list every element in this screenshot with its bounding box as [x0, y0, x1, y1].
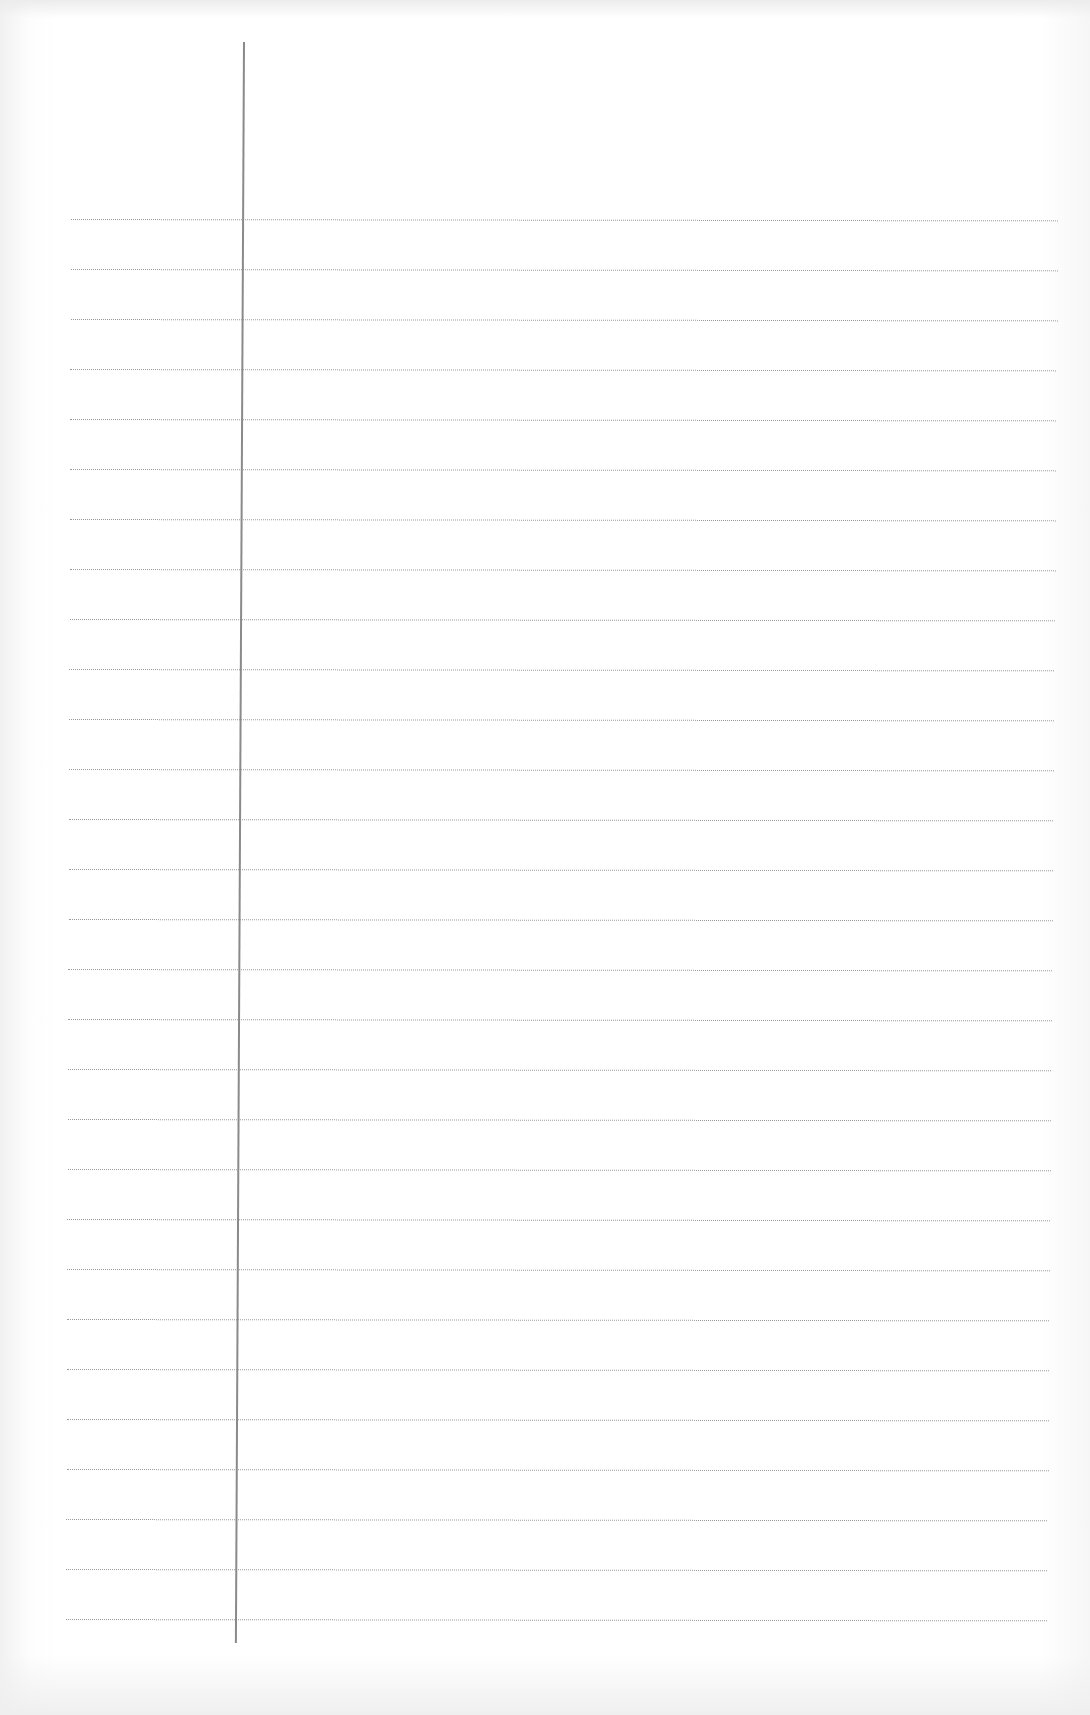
ruled-line [70, 369, 1056, 371]
ruled-line [66, 1569, 1047, 1571]
ruled-line [67, 1369, 1049, 1371]
top-edge-shadow [0, 0, 1090, 18]
ruled-line [69, 669, 1054, 671]
ruled-line [67, 1419, 1049, 1421]
ruled-line [67, 1269, 1050, 1271]
ruled-line [67, 1469, 1049, 1471]
ruled-line [70, 469, 1056, 471]
ruled-line [70, 419, 1056, 421]
ruled-line [69, 819, 1053, 821]
ruled-line [68, 969, 1052, 971]
lined-paper-sheet [0, 0, 1090, 1715]
ruled-line [68, 1169, 1051, 1171]
ruled-line [68, 1019, 1052, 1021]
ruled-line [68, 1069, 1051, 1071]
ruled-line [70, 519, 1056, 521]
margin-line [235, 42, 245, 1643]
ruled-line [70, 619, 1055, 621]
bottom-edge-shadow [0, 1655, 1090, 1715]
ruled-line [66, 1619, 1047, 1621]
ruled-line [69, 719, 1054, 721]
ruled-line [68, 1119, 1051, 1121]
ruled-line [71, 319, 1058, 321]
ruled-line [68, 919, 1052, 921]
ruled-line [71, 219, 1058, 221]
ruled-line [69, 769, 1054, 771]
ruled-line [67, 1219, 1050, 1221]
ruled-line [69, 869, 1053, 871]
ruled-line [70, 569, 1056, 571]
ruled-line [71, 269, 1058, 271]
ruled-line [66, 1519, 1047, 1521]
ruled-line [67, 1319, 1049, 1321]
